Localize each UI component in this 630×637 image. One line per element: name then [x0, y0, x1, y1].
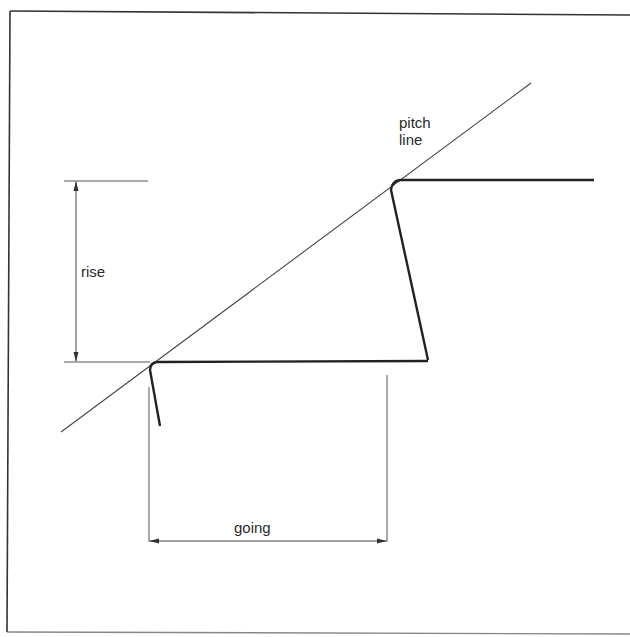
pitch-line-label-line2: line	[399, 132, 422, 148]
lower-step	[150, 361, 428, 426]
stair-diagram	[0, 0, 630, 637]
pitch-line	[61, 83, 531, 432]
going-dimension	[149, 375, 387, 542]
rise-dimension	[64, 181, 150, 362]
rise-label: rise	[81, 264, 105, 280]
pitch-line-label-line1: pitch	[399, 115, 431, 131]
upper-step	[391, 180, 594, 360]
going-label: going	[234, 520, 271, 536]
